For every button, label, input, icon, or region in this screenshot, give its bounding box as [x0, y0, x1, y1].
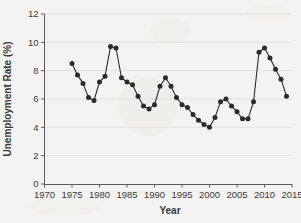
data-point — [174, 95, 179, 100]
y-tick-label: 8 — [33, 65, 38, 76]
y-tick-label: 0 — [33, 178, 38, 189]
data-point — [147, 106, 152, 111]
data-point — [86, 95, 91, 100]
data-point — [207, 125, 212, 130]
y-axis-title: Unemployment Rate (%) — [2, 41, 13, 156]
y-tick-label: 4 — [33, 122, 38, 133]
y-tick-label: 10 — [28, 37, 39, 48]
data-point — [70, 61, 75, 66]
data-point — [108, 44, 113, 49]
data-point — [229, 104, 234, 109]
data-point — [130, 82, 135, 87]
data-point — [257, 50, 262, 55]
data-point-markers — [70, 44, 290, 130]
x-tick-label: 1985 — [116, 189, 137, 200]
x-tick-label: 1970 — [34, 189, 55, 200]
data-line-unemployment-rate — [72, 47, 287, 128]
x-axis-title: Year — [159, 205, 180, 216]
data-point — [163, 75, 168, 80]
x-axis-tick-labels: 1970197519801985199019952000200520102015 — [34, 189, 301, 200]
data-point — [119, 75, 124, 80]
data-point — [218, 99, 223, 104]
data-point — [224, 97, 229, 102]
y-tick-label: 12 — [28, 8, 39, 19]
data-point — [169, 84, 174, 89]
x-tick-label: 1990 — [144, 189, 165, 200]
y-tick-label: 2 — [33, 150, 38, 161]
chart-figure: 024681012 197019751980198519901995200020… — [0, 0, 301, 223]
data-point — [81, 81, 86, 86]
data-point — [196, 118, 201, 123]
y-axis-ticks — [41, 14, 45, 184]
data-point — [125, 80, 130, 85]
data-point — [273, 67, 278, 72]
data-point — [284, 94, 289, 99]
x-tick-label: 1995 — [171, 189, 192, 200]
x-tick-label: 2005 — [226, 189, 247, 200]
data-point — [180, 102, 185, 107]
x-tick-label: 2000 — [199, 189, 220, 200]
data-point — [240, 116, 245, 121]
data-point — [152, 102, 157, 107]
x-tick-label: 2015 — [281, 189, 301, 200]
data-point — [246, 116, 251, 121]
data-point — [213, 115, 218, 120]
data-point — [141, 104, 146, 109]
data-point — [262, 46, 267, 51]
y-axis-tick-labels: 024681012 — [28, 8, 39, 189]
data-point — [114, 46, 119, 51]
data-point — [191, 112, 196, 117]
x-tick-label: 1980 — [89, 189, 110, 200]
y-tick-label: 6 — [33, 93, 38, 104]
data-point — [185, 105, 190, 110]
data-point — [251, 99, 256, 104]
unemployment-rate-line-chart: 024681012 197019751980198519901995200020… — [0, 0, 301, 223]
data-point — [268, 55, 273, 60]
data-point — [75, 72, 80, 77]
data-point — [97, 80, 102, 85]
data-point — [158, 84, 163, 89]
data-point — [279, 77, 284, 82]
data-point — [92, 98, 97, 103]
data-point — [235, 109, 240, 114]
data-point — [103, 74, 108, 79]
x-tick-label: 2010 — [254, 189, 275, 200]
data-point — [136, 94, 141, 99]
x-tick-label: 1975 — [61, 189, 82, 200]
data-point — [202, 122, 207, 127]
